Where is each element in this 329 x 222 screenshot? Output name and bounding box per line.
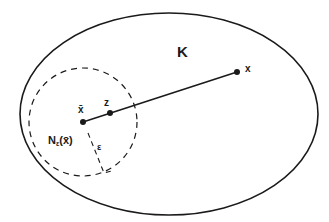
- label-x: x: [245, 63, 251, 74]
- label-xbar: x̄: [78, 104, 84, 115]
- neighborhood-n: N: [48, 134, 56, 146]
- radius-line: [88, 133, 112, 173]
- convex-set-diagram: K x z x̄ Nε(x̄) ε: [0, 0, 329, 222]
- set-k-boundary: [20, 13, 318, 215]
- label-epsilon: ε: [97, 142, 102, 152]
- neighborhood-arg: (x̄): [59, 134, 73, 146]
- point-xbar: [80, 119, 86, 125]
- label-k: K: [177, 43, 188, 60]
- label-neighborhood: Nε(x̄): [48, 134, 73, 147]
- point-x: [234, 69, 240, 75]
- point-z: [107, 110, 113, 116]
- label-z: z: [104, 97, 109, 108]
